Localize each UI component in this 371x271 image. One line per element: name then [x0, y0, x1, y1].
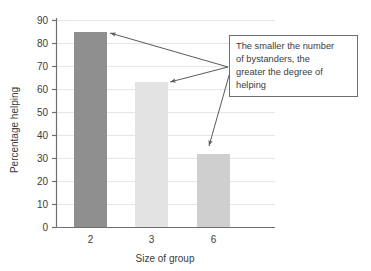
y-tick-label-70: 70 — [37, 61, 49, 72]
y-tick-label-0: 0 — [42, 222, 48, 233]
annotation-line-1: The smaller the number — [236, 41, 334, 51]
y-tick-label-40: 40 — [37, 130, 49, 141]
bar-group-2 — [74, 32, 107, 227]
y-tick-label-60: 60 — [37, 84, 49, 95]
annotation-arrow-to-bar-3 — [170, 67, 228, 82]
y-tick-labels: 0 10 20 30 40 50 60 70 80 90 — [37, 15, 49, 233]
y-tick-label-50: 50 — [37, 107, 49, 118]
y-tick-label-30: 30 — [37, 153, 49, 164]
x-tick-label-3: 3 — [149, 234, 155, 245]
annotation-line-4: helping — [236, 80, 266, 90]
annotation-line-2: of bystanders, the — [236, 54, 310, 64]
bar-group-6 — [197, 154, 230, 227]
annotation-arrow-to-bar-6 — [209, 72, 230, 146]
y-tick-marks — [52, 21, 57, 228]
annotation-line-3: greater the degree of — [236, 67, 323, 77]
x-tick-label-6: 6 — [211, 234, 217, 245]
x-axis-title: Size of group — [136, 253, 195, 264]
y-tick-label-20: 20 — [37, 176, 49, 187]
y-tick-label-10: 10 — [37, 199, 49, 210]
chart-canvas: 0 10 20 30 40 50 60 70 80 90 2 3 6 Size … — [0, 0, 371, 271]
y-tick-label-90: 90 — [37, 15, 49, 26]
bar-group-3 — [135, 82, 168, 227]
y-tick-label-80: 80 — [37, 38, 49, 49]
y-axis-title: Percentage helping — [9, 87, 20, 173]
bar-chart: 0 10 20 30 40 50 60 70 80 90 2 3 6 Size … — [0, 0, 371, 271]
annotation-arrow-to-bar-2 — [110, 33, 228, 67]
x-tick-label-2: 2 — [88, 234, 94, 245]
x-tick-labels: 2 3 6 — [88, 234, 217, 245]
